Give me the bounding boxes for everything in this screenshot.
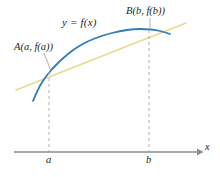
figure-canvas <box>0 0 220 177</box>
point-b-label: B(b, f(b)) <box>126 6 165 17</box>
x-axis-arrowhead <box>197 149 204 156</box>
point-a-label: A(a, f(a)) <box>14 42 53 53</box>
leader-line-a <box>44 53 51 71</box>
x-axis-label: x <box>205 142 210 153</box>
secant-line <box>16 23 186 90</box>
secant-line-figure: y = f(x) A(a, f(a)) B(b, f(b)) a b x <box>0 0 220 177</box>
curve-equation-label: y = f(x) <box>62 17 97 28</box>
x-tick-label-b: b <box>146 155 151 166</box>
x-tick-label-a: a <box>46 155 51 166</box>
